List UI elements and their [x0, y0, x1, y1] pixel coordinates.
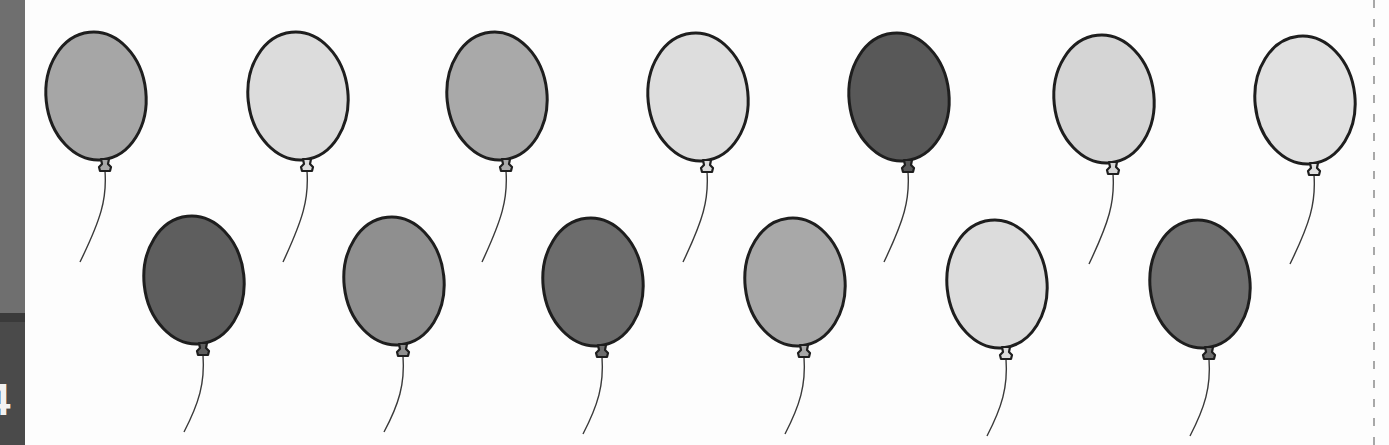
balloon-knot — [99, 159, 111, 171]
dashed-cut-line — [1373, 0, 1375, 445]
balloon-5 — [843, 28, 956, 262]
balloon-string — [884, 172, 908, 262]
balloon-2 — [242, 27, 355, 262]
balloon-4 — [642, 28, 755, 262]
balloon-body — [537, 213, 650, 351]
balloon-knot — [1107, 162, 1119, 174]
balloon-string — [785, 357, 804, 434]
balloon-knot — [1000, 347, 1012, 359]
balloon-knot — [500, 159, 512, 171]
balloon-body — [1249, 31, 1362, 169]
balloon-6 — [1048, 30, 1161, 264]
balloon-illustration — [0, 0, 1389, 445]
balloon-3 — [441, 27, 554, 262]
balloon-body — [843, 28, 956, 166]
balloon-string — [283, 171, 307, 262]
balloon-knot — [197, 343, 209, 355]
balloon-string — [80, 171, 105, 262]
balloon-11 — [739, 213, 852, 434]
balloon-body — [338, 212, 451, 350]
balloon-knot — [1203, 347, 1215, 359]
worksheet-page: 4 — [0, 0, 1389, 445]
balloon-body — [1144, 215, 1257, 353]
balloon-knot — [1308, 163, 1320, 175]
balloon-body — [40, 27, 153, 165]
balloon-10 — [537, 213, 650, 434]
balloon-string — [1190, 359, 1209, 436]
balloon-string — [583, 357, 602, 434]
balloon-string — [683, 172, 707, 262]
balloon-string — [384, 356, 403, 432]
balloon-body — [441, 27, 554, 165]
balloon-string — [1089, 174, 1113, 264]
balloon-knot — [301, 159, 313, 171]
balloon-knot — [397, 344, 409, 356]
balloon-8 — [138, 211, 251, 432]
balloon-knot — [596, 345, 608, 357]
balloon-knot — [902, 160, 914, 172]
balloon-body — [138, 211, 251, 349]
balloon-body — [242, 27, 355, 165]
balloon-knot — [701, 160, 713, 172]
balloon-string — [1290, 175, 1314, 264]
balloon-9 — [338, 212, 451, 432]
balloon-body — [1048, 30, 1161, 168]
balloon-body — [642, 28, 755, 166]
balloon-13 — [1144, 215, 1257, 436]
balloon-7 — [1249, 31, 1362, 264]
balloon-12 — [941, 215, 1054, 436]
balloon-1 — [40, 27, 153, 262]
balloon-body — [941, 215, 1054, 353]
balloon-body — [739, 213, 852, 351]
balloon-string — [184, 355, 203, 432]
balloon-string — [987, 359, 1006, 436]
balloon-string — [482, 171, 506, 262]
balloon-knot — [798, 345, 810, 357]
